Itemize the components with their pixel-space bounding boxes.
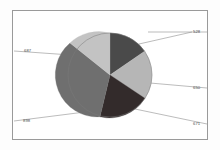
pie-chart-canvas bbox=[0, 0, 220, 150]
slice-label-650: 650 bbox=[193, 86, 200, 90]
slice-label-528: 528 bbox=[193, 30, 200, 34]
slice-label-687: 687 bbox=[24, 49, 31, 53]
leader-line-528 bbox=[139, 32, 192, 44]
slice-label-898: 898 bbox=[23, 119, 30, 123]
slice-label-671: 671 bbox=[193, 122, 200, 126]
pie-slices bbox=[55, 31, 152, 117]
pie-chart-figure: 528 650 671 898 687 bbox=[0, 0, 220, 150]
